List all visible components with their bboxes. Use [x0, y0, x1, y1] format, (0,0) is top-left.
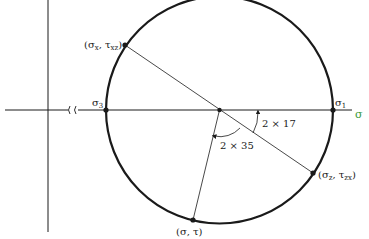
- label-point-x: (σx, τxz): [84, 39, 122, 52]
- sigma-axis-label: σ: [355, 108, 363, 121]
- label-point-z: (σz, τzx): [318, 169, 356, 182]
- label-point-general: (σ, τ): [176, 226, 203, 237]
- angle-arc-small: [253, 112, 258, 133]
- label-angle-small: 2 × 17: [262, 118, 296, 129]
- point-sigma1: [330, 107, 335, 112]
- point-center: [217, 108, 221, 112]
- angle-arc-large: [214, 128, 240, 137]
- point-z: [310, 170, 315, 175]
- point-sigma3: [103, 107, 108, 112]
- mohr-circle-diagram: σ3 σ1 σ (σx, τxz) (σz, τzx) (σ, τ) 2 × 1…: [0, 0, 369, 239]
- axis-break-icon: [68, 106, 78, 114]
- point-x: [122, 42, 127, 47]
- label-sigma3: σ3: [92, 97, 103, 110]
- label-sigma1: σ1: [335, 97, 346, 110]
- label-angle-large: 2 × 35: [220, 140, 254, 151]
- radius-line: [193, 110, 220, 220]
- point-general: [190, 217, 195, 222]
